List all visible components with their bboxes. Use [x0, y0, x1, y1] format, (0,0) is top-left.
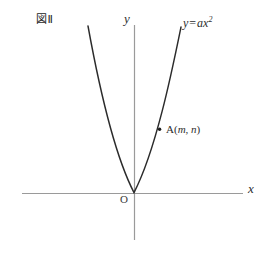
curve-equation-label: y=ax2 [183, 16, 212, 29]
point-a-name: A [166, 123, 174, 135]
figure-caption: 図Ⅱ [36, 14, 53, 25]
point-a-x-variable: m [178, 123, 186, 135]
point-a-label: A(m, n) [166, 124, 200, 135]
point-a-close-paren: ) [197, 123, 201, 135]
y-axis-label: y [124, 12, 130, 25]
x-axis-label: x [248, 182, 254, 195]
point-a-marker [158, 128, 161, 131]
equation-coefficient-term: ax [197, 16, 208, 30]
figure-container: 図Ⅱ y=ax2 y x O A(m, n) [0, 0, 271, 254]
coordinate-plane-graphic [0, 0, 271, 254]
origin-label: O [120, 194, 128, 205]
equation-equals-sign: = [188, 16, 197, 30]
figure-caption-text: 図Ⅱ [36, 13, 53, 26]
equation-exponent: 2 [208, 15, 212, 24]
